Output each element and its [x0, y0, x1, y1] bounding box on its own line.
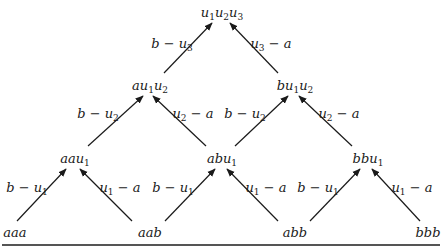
edge-label: b − u3 [151, 37, 193, 50]
arrow-n9-to-n5 [372, 169, 420, 221]
node-bbu1: bbu1 [353, 152, 384, 165]
edge-label: b − u2 [224, 107, 266, 120]
node-u1u2u3: u1u2u3 [201, 6, 243, 19]
edge-label: u2 − a [172, 107, 213, 120]
node-bu1u2: bu1u2 [277, 79, 314, 92]
node-aau1: aau1 [60, 152, 90, 165]
edge-label: u2 − a [318, 107, 359, 120]
node-au1u2: au1u2 [132, 79, 168, 92]
arrows-layer [0, 0, 442, 248]
edge-label: u1 − a [245, 181, 286, 194]
lattice-diagram: u1u2u3au1u2bu1u2aau1abu1bbu1aaaaababbbbb… [0, 0, 442, 248]
node-abu1: abu1 [207, 152, 237, 165]
node-bbb: bbb [416, 226, 441, 239]
edge-label: b − u1 [297, 181, 339, 194]
arrow-n7-to-n3 [80, 169, 132, 221]
node-aab: aab [138, 226, 162, 239]
edge-label: b − u2 [77, 107, 119, 120]
node-aaa: aaa [3, 226, 26, 239]
bottom-rule [2, 244, 440, 246]
edge-label: u3 − a [250, 37, 291, 50]
node-abb: abb [283, 226, 307, 239]
edge-label: u1 − a [99, 181, 140, 194]
edge-label: b − u1 [6, 181, 48, 194]
edge-label: b − u1 [152, 181, 194, 194]
edge-label: u1 − a [391, 181, 432, 194]
